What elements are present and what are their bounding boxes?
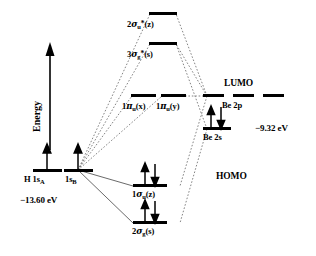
level-h-1s-b [64, 169, 93, 172]
electron-pair-2sigma-g-s [141, 200, 158, 223]
label-be-2p: Be 2p [222, 101, 242, 110]
label-1pi-u-y: 1πu(y) [156, 102, 179, 113]
mo2-paren: (x) [136, 101, 146, 111]
mo1-paren: (s) [144, 49, 153, 59]
label-h-1s-a: H 1sA [24, 175, 45, 186]
level-1pi-u-x [131, 94, 156, 97]
label-be-2s: Be 2s [203, 133, 222, 142]
label-3sigma-g-star-s: 3σg*(s) [127, 50, 153, 61]
level-2sigma-u-star-z [149, 12, 177, 15]
h1sb-sub: B [72, 178, 76, 185]
level-h-1s-a [33, 169, 62, 172]
label-1pi-u-x: 1πu(x) [122, 102, 145, 113]
mo-diagram-canvas: Energy 2σu*(z) 3σg*(s) 1πu(x) 1πu(y) 1σu… [0, 0, 316, 256]
energy-axis-label: Energy [31, 101, 42, 132]
label-h-energy-value: −13.60 eV [20, 196, 57, 205]
level-be-2p-2 [233, 94, 254, 97]
h1sa-sub: A [40, 178, 45, 185]
mo5-paren: (s) [145, 226, 154, 236]
energy-axis-arrow [46, 42, 55, 150]
level-2sigma-g-s [133, 221, 167, 224]
mo3-paren: (y) [170, 101, 180, 111]
level-be-2p-3 [263, 94, 284, 97]
right-correlation-lines [176, 14, 207, 223]
left-correlation-lines-solid [78, 170, 133, 223]
label-lumo: LUMO [224, 79, 253, 89]
left-correlation-lines [78, 14, 162, 170]
level-1pi-u-y [161, 94, 186, 97]
mo0-paren: (z) [145, 19, 154, 29]
label-h-1s-b: 1sB [65, 175, 77, 186]
label-2sigma-u-star-z: 2σu*(z) [127, 20, 154, 31]
level-be-2s [203, 127, 231, 130]
electron-pair-1sigma-u-z [141, 163, 158, 186]
label-1sigma-u-z: 1σu(z) [132, 190, 155, 201]
label-be-energy-value: −9.32 eV [255, 124, 288, 133]
h1sa-text: H 1s [24, 174, 40, 184]
mo4-paren: (z) [146, 189, 155, 199]
level-1sigma-u-z [133, 184, 167, 187]
label-2sigma-g-s: 2σg(s) [132, 227, 154, 238]
level-be-2p-1 [203, 94, 224, 97]
label-homo: HOMO [216, 172, 247, 182]
level-3sigma-g-star-s [149, 42, 177, 45]
